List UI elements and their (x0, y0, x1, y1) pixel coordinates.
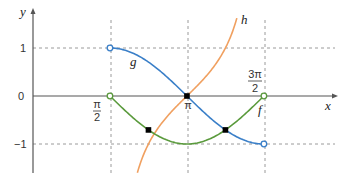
intersection-point-2 (223, 127, 229, 133)
x-tick-3pi-half-num: 3π (248, 68, 262, 80)
open-endpoint-g-1 (261, 141, 267, 147)
y-axis-label: y (18, 4, 26, 19)
y-axis-arrow-icon (31, 8, 36, 14)
intersection-point-0 (184, 93, 190, 99)
label-g: g (130, 54, 137, 69)
open-endpoint-f-0 (107, 93, 113, 99)
y-tick-0: 0 (18, 90, 24, 102)
grid (33, 20, 335, 175)
y-tick-minus-1: −1 (14, 138, 27, 150)
x-axis-label: x (324, 98, 331, 113)
function-plot: y x 1 0 −1 π 2 π 3π 2 g h f (0, 0, 347, 181)
x-tick-pi-half-den: 2 (94, 111, 100, 123)
x-tick-pi-half-num: π (93, 98, 101, 110)
label-f: f (258, 102, 264, 117)
y-tick-1: 1 (20, 42, 26, 54)
x-tick-3pi-half-den: 2 (252, 82, 258, 94)
open-endpoint-g-0 (107, 45, 113, 51)
x-axis-arrow-icon (332, 94, 338, 99)
intersection-point-1 (146, 127, 152, 133)
label-h: h (241, 12, 248, 27)
open-endpoint-f-1 (261, 93, 267, 99)
